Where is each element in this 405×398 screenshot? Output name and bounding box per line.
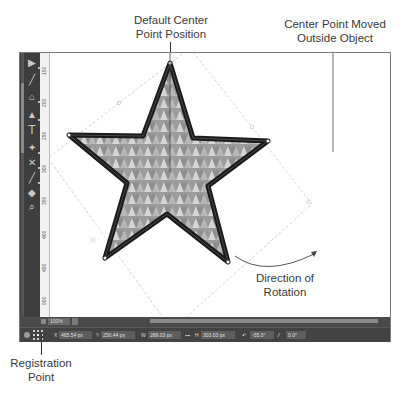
zoom-level-field[interactable]: 100% (48, 318, 70, 325)
hand-tool-icon[interactable]: ◆ (26, 186, 38, 198)
callout-moved-center-line1: Center Point Moved (272, 17, 398, 31)
callout-registration: Registration Point (0, 356, 82, 384)
callout-moved-center: Center Point Moved Outside Object (272, 17, 398, 45)
document-canvas[interactable]: Direction of Rotation (50, 53, 390, 317)
zoom-dropdown-button[interactable] (72, 318, 78, 325)
ruler-label: 350 (41, 197, 47, 205)
height-field[interactable]: 303.03 px (201, 331, 235, 339)
type-tool-icon[interactable]: T (26, 124, 38, 136)
ruler-label: 500 (41, 297, 47, 305)
callout-default-center: Default Center Point Position (118, 13, 224, 41)
star-shape (69, 63, 268, 262)
h-label: H (195, 331, 199, 339)
zoom-toggle-button[interactable] (41, 319, 46, 324)
skew-field[interactable]: 0.0° (286, 331, 306, 339)
paint-bucket-tool-icon[interactable]: ⌂ (26, 90, 38, 102)
link-dimensions-icon[interactable]: ⊶ (185, 331, 190, 339)
x-label: X (54, 331, 57, 339)
vertical-ruler: 150 200 250 300 350 400 450 500 (40, 53, 50, 317)
line-tool-icon[interactable]: ╱ (26, 73, 38, 85)
transform-tool-icon[interactable]: ✦ (26, 141, 38, 153)
ruler-label: 200 (41, 99, 47, 107)
settings-gear-icon[interactable] (24, 332, 30, 338)
callout-default-center-line1: Default Center (118, 13, 224, 27)
leader-line-registration (41, 333, 42, 355)
width-field[interactable]: 289.03 px (148, 331, 181, 339)
rotation-field[interactable]: -55.3° (250, 331, 274, 339)
rotation-direction-arrow (235, 254, 314, 267)
rotate-icon: ↶ (242, 331, 246, 339)
y-label: Y (96, 331, 99, 339)
y-position-field[interactable]: 250.44 px (101, 331, 135, 339)
ruler-label: 300 (41, 165, 47, 173)
tools-scrollbar-thumb[interactable] (21, 83, 24, 153)
w-label: W (141, 331, 146, 339)
ruler-label: 450 (41, 264, 47, 272)
app-window: ▶ ╱ ⌂ ▲ T ✦ ✕ ╱ ◆ ⌕ 150 200 250 300 350 … (19, 52, 391, 342)
callout-default-center-line2: Point Position (118, 27, 224, 41)
tools-panel: ▶ ╱ ⌂ ▲ T ✦ ✕ ╱ ◆ ⌕ (20, 53, 40, 317)
callout-registration-line1: Registration (0, 356, 82, 370)
scissors-tool-icon[interactable]: ✕ (26, 156, 38, 168)
callout-direction-line2: Rotation (240, 285, 330, 299)
zoom-bar: 100% (40, 317, 390, 327)
skew-icon: ⁄⁄ (278, 331, 280, 339)
ruler-label: 250 (41, 132, 47, 140)
callout-registration-line2: Point (0, 370, 82, 384)
horizontal-scrollbar[interactable] (150, 319, 378, 323)
ruler-label: 400 (41, 231, 47, 239)
callout-moved-center-line2: Outside Object (272, 31, 398, 45)
callout-direction-line1: Direction of (240, 271, 330, 285)
selection-tool-icon[interactable]: ▶ (26, 56, 38, 68)
eyedropper-tool-icon[interactable]: ╱ (26, 171, 38, 183)
zoom-tool-icon[interactable]: ⌕ (26, 201, 38, 213)
pen-tool-icon[interactable]: ▲ (26, 108, 38, 120)
callout-direction: Direction of Rotation (240, 271, 330, 299)
transform-status-bar: X 465.54 px Y 250.44 px W 289.03 px ⊶ H … (20, 327, 390, 342)
ruler-label: 150 (41, 67, 47, 75)
x-position-field[interactable]: 465.54 px (59, 331, 92, 339)
